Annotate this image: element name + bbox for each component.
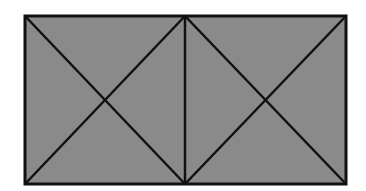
diagram-canvas	[0, 0, 366, 191]
